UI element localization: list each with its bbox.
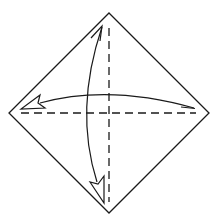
- diagram-canvas: [0, 0, 216, 215]
- origami-diagram: Square paper rotated as a diamond with t…: [0, 0, 216, 215]
